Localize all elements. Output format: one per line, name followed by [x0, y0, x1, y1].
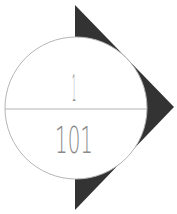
denominator-text: 101 [55, 118, 93, 162]
numerator-text: 1 [72, 66, 76, 110]
fraction-logo: 1 101 [0, 0, 177, 214]
